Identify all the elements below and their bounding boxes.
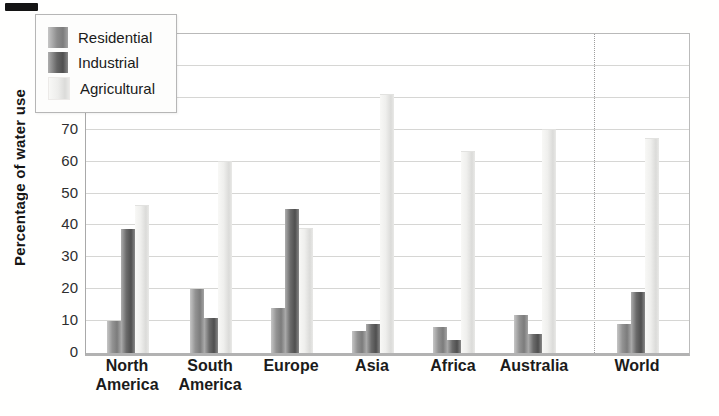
y-tick-label-0: 0	[28, 343, 78, 360]
bar-industrial-asia	[366, 324, 380, 353]
y-tick-label-50: 50	[28, 184, 78, 201]
legend: Residential Industrial Agricultural	[35, 14, 177, 113]
scan-corner-mark	[5, 3, 38, 11]
bar-residential-australia	[514, 315, 528, 353]
agricultural-swatch-icon	[48, 77, 70, 100]
bar-residential-africa	[433, 327, 447, 353]
y-tick-label-40: 40	[28, 215, 78, 232]
bar-industrial-africa	[447, 340, 461, 353]
x-axis-label-north-america: North America	[79, 356, 175, 394]
legend-item-residential: Residential	[48, 27, 176, 48]
bar-agricultural-africa	[461, 151, 475, 353]
world-separator-line	[594, 34, 595, 353]
legend-label-industrial: Industrial	[78, 54, 139, 71]
y-tick-label-10: 10	[28, 311, 78, 328]
bar-residential-south-america	[190, 289, 204, 353]
x-axis-label-australia: Australia	[486, 356, 582, 375]
y-tick-label-70: 70	[28, 120, 78, 137]
bar-agricultural-europe	[299, 228, 313, 353]
bar-residential-europe	[271, 308, 285, 353]
y-tick-label-20: 20	[28, 279, 78, 296]
legend-label-agricultural: Agricultural	[80, 80, 155, 97]
y-tick-label-30: 30	[28, 247, 78, 264]
industrial-swatch-icon	[48, 52, 68, 73]
legend-label-residential: Residential	[78, 29, 152, 46]
residential-swatch-icon	[48, 27, 68, 48]
bar-industrial-europe	[285, 209, 299, 353]
bar-agricultural-south-america	[218, 161, 232, 353]
water-use-bar-chart: Percentage of water use 1009080706050403…	[0, 0, 719, 416]
bar-industrial-world	[631, 292, 645, 353]
legend-item-industrial: Industrial	[48, 52, 176, 73]
bar-industrial-south-america	[204, 318, 218, 353]
bar-residential-north-america	[107, 321, 121, 353]
bar-agricultural-world	[645, 138, 659, 353]
y-axis-title: Percentage of water use	[8, 68, 30, 286]
bar-residential-asia	[352, 331, 366, 353]
bar-agricultural-australia	[542, 129, 556, 353]
y-tick-label-60: 60	[28, 152, 78, 169]
bar-industrial-australia	[528, 334, 542, 353]
legend-item-agricultural: Agricultural	[48, 77, 176, 100]
bar-residential-world	[617, 324, 631, 353]
bar-agricultural-asia	[380, 94, 394, 353]
bar-industrial-north-america	[121, 229, 135, 353]
x-axis-label-world: World	[589, 356, 685, 375]
bar-agricultural-north-america	[135, 205, 149, 353]
